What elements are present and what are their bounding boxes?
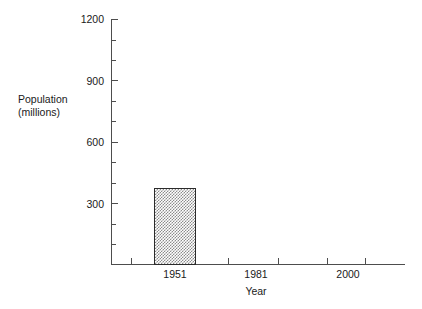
x-tick-label-2000: 2000: [336, 268, 359, 280]
y-axis-title: Population(millions): [18, 93, 68, 119]
y-tick-minor-800: [111, 101, 116, 102]
x-tick-1: [131, 258, 132, 265]
y-tick-major-300: [111, 203, 118, 204]
y-tick-minor-200: [111, 224, 116, 225]
y-tick-label-group: 1200 900 600 300: [66, 0, 104, 309]
x-tick-4: [327, 258, 328, 265]
y-tick-label-300: 300: [66, 199, 104, 210]
y-tick-major-1200: [111, 19, 118, 20]
y-tick-label-600: 600: [66, 137, 104, 148]
y-tick-minor-100: [111, 244, 116, 245]
y-tick-minor-1100: [111, 40, 116, 41]
x-tick-label-1951: 1951: [163, 268, 186, 280]
x-axis-title: Year: [245, 285, 266, 297]
x-tick-5: [365, 258, 366, 265]
x-tick-2: [228, 258, 229, 265]
y-tick-minor-400: [111, 183, 116, 184]
y-tick-major-600: [111, 142, 118, 143]
y-tick-minor-1000: [111, 60, 116, 61]
x-tick-label-1981: 1981: [244, 268, 267, 280]
y-tick-label-1200: 1200: [66, 14, 104, 25]
bar-chart: Population(millions) 1200 900 600 300 19…: [0, 0, 422, 309]
y-tick-major-900: [111, 80, 118, 81]
y-tick-minor-700: [111, 121, 116, 122]
bar-1951: [154, 188, 196, 265]
x-tick-3: [278, 258, 279, 265]
y-tick-label-900: 900: [66, 76, 104, 87]
y-tick-minor-500: [111, 162, 116, 163]
y-axis-title-line-2: (millions): [18, 106, 60, 118]
y-axis-title-line-1: Population: [18, 93, 68, 105]
